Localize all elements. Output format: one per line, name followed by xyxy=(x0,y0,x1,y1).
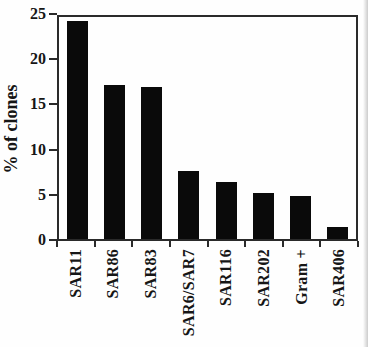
y-tick xyxy=(49,13,57,15)
bar-sar83 xyxy=(141,87,162,239)
x-tick-label-sar116: SAR116 xyxy=(217,249,235,306)
x-tick xyxy=(94,241,96,247)
bar-sar406 xyxy=(327,227,348,239)
x-tick-label-sar6-sar7: SAR6/SAR7 xyxy=(180,249,198,336)
y-tick xyxy=(49,58,57,60)
y-tick xyxy=(49,149,57,151)
x-tick-label-sar202: SAR202 xyxy=(255,249,273,307)
y-tick xyxy=(49,103,57,105)
bar-sar116 xyxy=(216,182,237,239)
x-tick xyxy=(56,241,58,247)
x-tick xyxy=(357,241,359,247)
y-tick-label: 10 xyxy=(10,141,46,159)
x-tick xyxy=(207,241,209,247)
x-tick-label-sar86: SAR86 xyxy=(104,249,122,299)
bar-chart-figure: % of clones 0510152025 SAR11SAR86SAR83SA… xyxy=(0,0,368,347)
x-tick-label-sar406: SAR406 xyxy=(330,249,348,307)
y-tick-label: 0 xyxy=(10,231,46,249)
bar-sar11 xyxy=(67,21,88,239)
bar-sar202 xyxy=(253,193,274,239)
y-tick-label: 25 xyxy=(10,5,46,23)
bar-sar6-sar7 xyxy=(178,171,199,239)
x-tick xyxy=(319,241,321,247)
x-tick-label-sar83: SAR83 xyxy=(142,249,160,299)
x-tick xyxy=(169,241,171,247)
x-tick xyxy=(282,241,284,247)
plot-area xyxy=(57,15,358,241)
y-tick-label: 5 xyxy=(10,186,46,204)
bar-gram- xyxy=(290,196,311,240)
y-tick-label: 20 xyxy=(10,50,46,68)
x-tick-label-sar11: SAR11 xyxy=(67,249,85,298)
x-tick xyxy=(244,241,246,247)
scan-edge-shadow xyxy=(363,0,368,347)
x-tick-label-gram-: Gram + xyxy=(293,249,311,305)
x-tick xyxy=(131,241,133,247)
bar-sar86 xyxy=(104,85,125,239)
y-tick-label: 15 xyxy=(10,95,46,113)
y-tick xyxy=(49,194,57,196)
